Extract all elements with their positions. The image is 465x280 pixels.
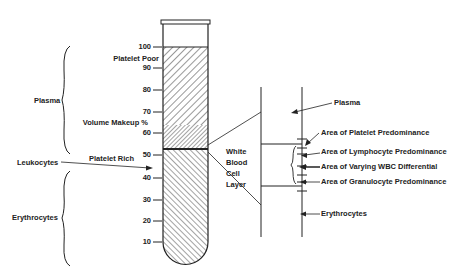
tube-contents xyxy=(163,47,208,270)
tick-100: 100 xyxy=(138,43,151,51)
tick-70: 70 xyxy=(143,108,151,116)
plasma-arrow-icon xyxy=(291,109,298,114)
erythrocytes-group-label: Erythrocytes xyxy=(12,214,58,222)
erythrocytes-arrow-icon xyxy=(300,212,306,217)
detail-plasma-label: Plasma xyxy=(334,99,360,107)
scale-ticks xyxy=(153,47,162,242)
plasma-platelet-poor xyxy=(163,47,208,125)
wbc-brace xyxy=(291,146,296,184)
tick-80: 80 xyxy=(143,86,151,94)
erythrocytes-brace xyxy=(62,171,70,266)
diagram-graphics xyxy=(0,0,465,280)
plasma-group-label: Plasma xyxy=(34,97,60,105)
area-granulocyte-label: Area of Granulocyte Predominance xyxy=(321,178,446,186)
tick-30: 30 xyxy=(143,196,151,204)
area-lymphocyte-label: Area of Lymphocyte Predominance xyxy=(321,148,447,156)
tube-lip xyxy=(161,20,210,24)
erythrocyte-layer xyxy=(163,150,208,270)
buffy-coat xyxy=(163,148,208,150)
wbc-layer-label: White Blood Cell Layer xyxy=(226,146,260,190)
plasma-brace xyxy=(62,46,70,154)
tick-50: 50 xyxy=(143,151,151,159)
plasma-platelet-rich xyxy=(163,125,208,148)
tick-20: 20 xyxy=(143,217,151,225)
tick-40: 40 xyxy=(143,174,151,182)
detail-erythrocytes-label: Erythrocytes xyxy=(321,210,367,218)
platelet-poor-label: Platelet Poor xyxy=(113,55,159,63)
tick-90: 90 xyxy=(143,64,151,72)
leukocytes-group-label: Leukocytes xyxy=(17,159,58,167)
leukocytes-arrow-icon xyxy=(146,166,153,171)
volume-makeup-label: Volume Makeup % xyxy=(83,119,148,127)
area-platelet-label: Area of Platelet Predominance xyxy=(321,129,429,137)
tick-10: 10 xyxy=(143,238,151,246)
area-varying-label: Area of Varying WBC Differential xyxy=(321,163,437,171)
platelet-rich-label: Platelet Rich xyxy=(89,155,134,163)
tick-60: 60 xyxy=(143,129,151,137)
